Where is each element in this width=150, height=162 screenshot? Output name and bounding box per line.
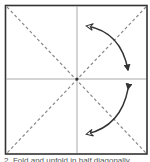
step-caption: 2. Fold and unfold in half diagonally. (4, 156, 150, 162)
center-point (76, 78, 79, 81)
origami-diagram (0, 0, 150, 162)
